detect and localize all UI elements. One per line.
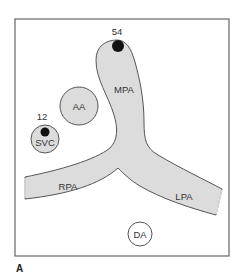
mpa-marker-dot <box>112 40 124 52</box>
lpa-label: LPA <box>175 191 193 202</box>
da-label: DA <box>133 229 147 240</box>
mpa-label: MPA <box>114 84 135 95</box>
svc-value: 12 <box>37 111 48 122</box>
mpa-value: 54 <box>112 26 123 37</box>
diagram-canvas: AA SVC 12 54 MPA RPA LPA DA A <box>0 0 240 280</box>
panel-label: A <box>16 263 23 274</box>
rpa-label: RPA <box>59 181 78 192</box>
aa-label: AA <box>73 101 86 112</box>
svc-marker-dot <box>41 128 50 137</box>
svc-label: SVC <box>35 137 55 148</box>
